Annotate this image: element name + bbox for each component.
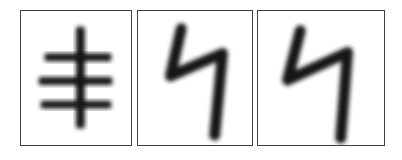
digit-four-stroke [288,31,348,138]
glyph-drawing-1 [21,11,131,145]
top-bar [45,53,112,61]
digit-four-stroke [170,29,222,135]
glyph-panel-2 [137,10,253,146]
glyph-drawing-3 [258,11,384,145]
bottom-bar [41,101,112,109]
glyph-panel-1 [20,10,132,146]
image-canvas [0,0,402,160]
middle-bar [39,77,113,85]
glyph-drawing-2 [138,11,252,145]
glyph-panel-3 [257,10,385,146]
